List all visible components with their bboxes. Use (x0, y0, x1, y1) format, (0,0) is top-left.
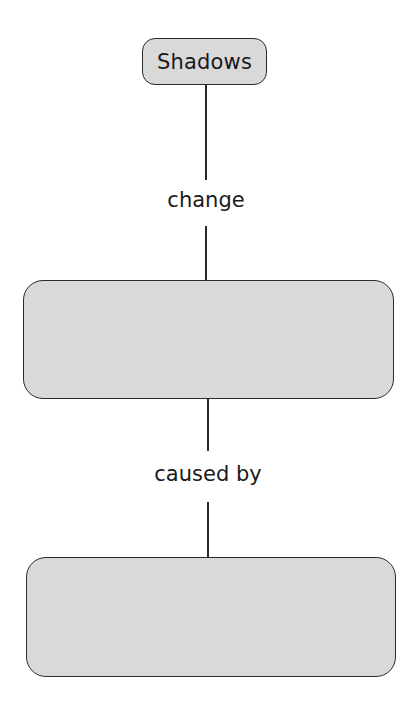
connector-line (207, 399, 209, 451)
connector-line (207, 502, 209, 557)
connector-line (205, 85, 207, 180)
node-blank-1 (23, 280, 394, 399)
edge-label-change: change (167, 188, 244, 212)
edge-label-caused-by: caused by (154, 462, 261, 486)
connector-line (205, 226, 207, 280)
node-shadows-label: Shadows (157, 50, 252, 74)
node-blank-2 (26, 557, 396, 677)
node-shadows: Shadows (142, 38, 267, 85)
